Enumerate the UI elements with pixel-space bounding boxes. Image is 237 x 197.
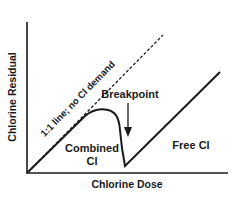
combined-cl-label-line2: Cl: [87, 155, 98, 167]
free-cl-label: Free Cl: [172, 139, 209, 151]
breakpoint-label: Breakpoint: [101, 88, 159, 100]
breakpoint-arrow-head-icon: [124, 127, 132, 137]
combined-cl-label-line1: Combined: [65, 142, 119, 154]
breakpoint-chlorination-diagram: Chlorine Residual Chlorine Dose 1:1 line…: [0, 0, 237, 197]
x-axis-label: Chlorine Dose: [91, 178, 162, 190]
y-axis-label: Chlorine Residual: [6, 52, 18, 141]
